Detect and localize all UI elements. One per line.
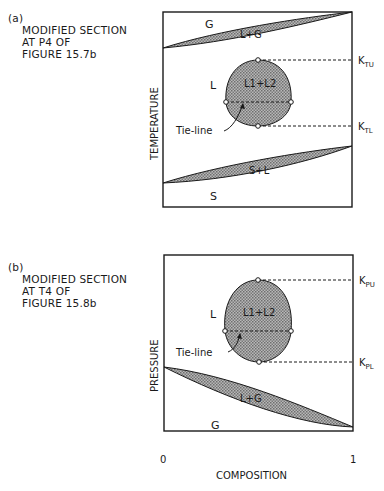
panel-b-y-axis-label: PRESSURE <box>149 339 160 392</box>
panel-a-diagram: G L+G L L1+L2 Tie-line S+L S KTU KTL TEM… <box>149 12 374 207</box>
panel-a-liquid-gas-label: L+G <box>240 29 262 40</box>
panel-b-lower-critical-point <box>257 360 262 365</box>
panel-a-y-axis-label: TEMPERATURE <box>149 87 160 161</box>
panel-b-tie-right-point <box>289 329 294 334</box>
panel-a-two-liquid-region <box>226 60 291 126</box>
panel-a-two-liquid-label: L1+L2 <box>244 78 276 89</box>
panel-a-solid-label: S <box>210 190 217 203</box>
phase-diagrams: G L+G L L1+L2 Tie-line S+L S KTU KTL TEM… <box>0 0 384 491</box>
panel-b-two-liquid-region <box>225 280 292 362</box>
x-axis-label: COMPOSITION <box>216 470 287 481</box>
panel-a-upper-k-label: KTU <box>358 55 374 69</box>
panel-a-tie-left-point <box>224 100 229 105</box>
panel-b-liquid-label: L <box>210 308 217 321</box>
panel-a-liquid-label: L <box>210 79 217 92</box>
panel-a-upper-critical-point <box>256 58 261 63</box>
panel-a-solid-liquid-label: S+L <box>249 165 270 176</box>
panel-a-lower-critical-point <box>256 124 261 129</box>
panel-b-tie-line-label: Tie-line <box>175 347 212 358</box>
panel-b-upper-critical-point <box>256 278 261 283</box>
panel-b-lower-k-label: KPL <box>359 357 374 371</box>
panel-b-diagram: L L1+L2 Tie-line L+G G KPU KPL PRESSURE … <box>149 255 375 481</box>
panel-a-tie-right-point <box>289 100 294 105</box>
panel-b-two-liquid-label: L1+L2 <box>243 307 275 318</box>
panel-b-liquid-gas-label: L+G <box>240 393 262 404</box>
panel-b-gas-label: G <box>211 419 220 432</box>
panel-b-tie-left-point <box>223 329 228 334</box>
panel-b-upper-k-label: KPU <box>359 275 375 289</box>
x-axis-tick-max: 1 <box>350 454 356 465</box>
panel-a-gas-label: G <box>205 18 214 31</box>
panel-a-tie-line-label: Tie-line <box>175 125 212 136</box>
panel-a-lower-k-label: KTL <box>358 121 373 135</box>
x-axis-tick-min: 0 <box>160 454 166 465</box>
